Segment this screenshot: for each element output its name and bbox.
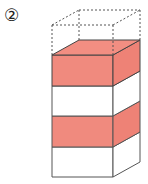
stacked-cubes-diagram (0, 0, 148, 184)
